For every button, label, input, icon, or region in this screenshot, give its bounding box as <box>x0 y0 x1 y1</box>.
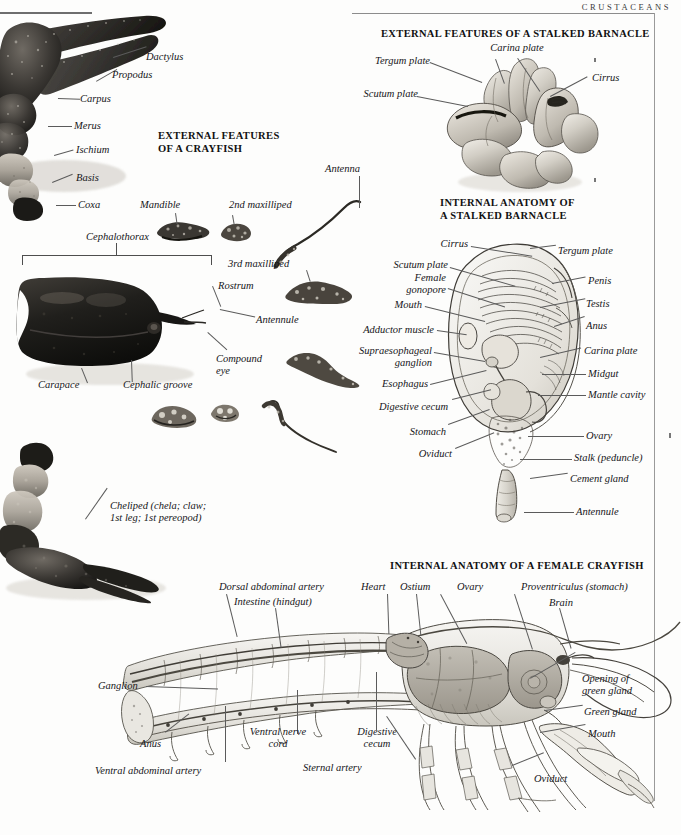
label-bi-penis: Penis <box>588 275 611 287</box>
running-head: CRUSTACEANS <box>582 2 671 12</box>
section-title-crayfish-internal: INTERNAL ANATOMY OF A FEMALE CRAYFISH <box>390 560 644 573</box>
label-ci-ventral-nerve-cord: Ventral nerve cord <box>232 726 324 749</box>
leader-bi-stalk <box>520 459 572 460</box>
label-bi-female-gonopore: Female gonopore <box>370 272 446 295</box>
label-bi-mantle-cavity: Mantle cavity <box>588 389 645 401</box>
label-ci-intestine-hindgut: Intestine (hindgut) <box>234 596 312 608</box>
label-bi-adductor-muscle: Adductor muscle <box>336 324 434 336</box>
leader-antenna <box>359 176 360 208</box>
label-ci-proventriculus: Proventriculus (stomach) <box>521 581 628 593</box>
label-be-carina-plate: Carina plate <box>472 42 562 54</box>
mouthpart-specimen-photo-5 <box>148 400 200 432</box>
label-bi-cirrus: Cirrus <box>406 238 468 250</box>
label-ci-green-gland: Green gland <box>584 706 636 718</box>
label-bi-antennule: Antennule <box>576 506 619 518</box>
margin-tick-barnacle-lower <box>594 178 596 182</box>
label-ci-opening-of-green-gland: Opening of green gland <box>582 673 632 696</box>
label-bi-midgut: Midgut <box>588 368 618 380</box>
label-ci-ganglion: Ganglion <box>98 680 138 692</box>
label-ci-ostium: Ostium <box>400 581 430 593</box>
leader-ci-digestive-cecum <box>376 672 377 730</box>
cephalothorax-brace-stem <box>116 243 117 256</box>
section-title-barnacle-internal: INTERNAL ANATOMY OF A STALKED BARNACLE <box>440 197 575 222</box>
stalked-barnacle-specimen-photo <box>430 42 610 192</box>
label-basis: Basis <box>76 172 99 184</box>
label-rostrum: Rostrum <box>218 280 254 292</box>
second-maxilliped-specimen-photo <box>218 218 254 244</box>
label-be-scutum-plate: Scutum plate <box>340 88 418 100</box>
leader-bi-mantle-cavity <box>538 395 586 396</box>
label-ci-sternal-artery: Sternal artery <box>303 762 362 774</box>
label-ci-ovary: Ovary <box>457 581 483 593</box>
label-bi-esophagus: Esophagus <box>370 378 428 390</box>
leader-bi-midgut <box>542 374 586 375</box>
top-right-rule <box>352 13 655 14</box>
label-bi-tergum-plate: Tergum plate <box>558 245 613 257</box>
label-cephalic-groove: Cephalic groove <box>123 379 192 391</box>
label-bi-oviduct: Oviduct <box>404 448 452 460</box>
cephalothorax-brace <box>22 255 212 265</box>
third-maxilliped-specimen-photo <box>283 272 355 308</box>
label-ci-mouth: Mouth <box>588 728 615 740</box>
label-coxa: Coxa <box>78 199 100 211</box>
label-antenna: Antenna <box>325 163 360 175</box>
margin-tick-upper <box>669 433 671 438</box>
label-ci-brain: Brain <box>549 597 573 609</box>
margin-tick-barnacle-upper <box>594 58 596 62</box>
label-bi-ovary: Ovary <box>586 430 612 442</box>
label-compound-eye: Compound eye <box>216 353 262 376</box>
label-ci-ventral-abdominal-artery: Ventral abdominal artery <box>95 765 201 777</box>
label-cephalothorax: Cephalothorax <box>60 231 175 243</box>
label-bi-carina-plate: Carina plate <box>584 345 637 357</box>
label-bi-stomach: Stomach <box>396 426 446 438</box>
label-third-maxilliped: 3rd maxilliped <box>228 258 289 270</box>
label-bi-cement-gland: Cement gland <box>570 473 629 485</box>
label-carapace: Carapace <box>38 379 79 391</box>
label-cheliped: Cheliped (chela; claw; 1st leg; 1st pere… <box>110 500 206 523</box>
label-bi-testis: Testis <box>586 298 610 310</box>
label-ci-digestive-cecum: Digestive cecum <box>331 726 423 749</box>
leader-coxa <box>56 205 76 206</box>
leader-antennule <box>220 309 255 317</box>
leader-ci-ventral-abdominal-artery <box>225 706 226 762</box>
label-bi-anus: Anus <box>586 320 607 332</box>
label-ci-heart: Heart <box>361 581 386 593</box>
leader-merus <box>48 126 72 127</box>
leader-bi-ovary <box>528 436 584 437</box>
leader-bi-antennule <box>524 512 574 513</box>
carapace-specimen-photo <box>14 268 214 388</box>
encyclopedia-page: CRUSTACEANS EXTERNAL FEATURES OF A CRAYF… <box>0 0 681 835</box>
label-be-tergum-plate: Tergum plate <box>348 55 430 67</box>
label-ci-oviduct: Oviduct <box>534 773 567 785</box>
label-bi-digestive-cecum: Digestive cecum <box>348 401 448 413</box>
mouthpart-specimen-photo-6 <box>208 400 242 426</box>
label-ci-dorsal-abdominal-artery: Dorsal abdominal artery <box>219 581 324 593</box>
label-be-cirrus: Cirrus <box>592 72 619 84</box>
label-propodus: Propodus <box>112 69 152 81</box>
antennule-specimen-photo <box>258 398 338 454</box>
section-title-barnacle-external: EXTERNAL FEATURES OF A STALKED BARNACLE <box>381 28 650 41</box>
label-merus: Merus <box>74 120 101 132</box>
label-ci-anus: Anus <box>140 738 161 750</box>
label-bi-supraesophageal-ganglion: Supraesophageal ganglion <box>330 345 432 368</box>
label-bi-mouth: Mouth <box>378 299 422 311</box>
label-mandible: Mandible <box>140 199 180 211</box>
cheliped-specimen-photo-top <box>0 6 224 221</box>
label-bi-scutum-plate: Scutum plate <box>370 259 448 271</box>
label-antennule: Antennule <box>256 314 299 326</box>
label-ischium: Ischium <box>76 144 109 156</box>
label-carpus: Carpus <box>80 93 111 105</box>
label-bi-stalk-peduncle: Stalk (peduncle) <box>574 452 643 464</box>
label-dactylus: Dactylus <box>146 51 183 63</box>
